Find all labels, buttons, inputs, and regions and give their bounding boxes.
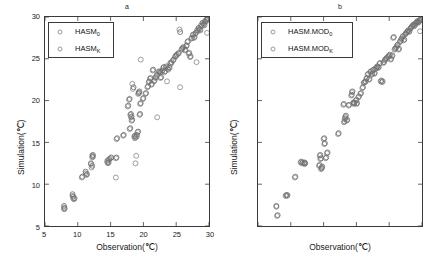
legend-item-hasmmod-0[interactable]: HASM.MOD0 [262,23,352,40]
x-tick-label: 10 [73,230,81,239]
legend-label-0: HASM0 [75,27,100,37]
legend-marker-icon [271,29,276,34]
legend-b[interactable]: HASM.MOD0 HASM.MODK [261,22,353,58]
panel-a: a 51015202530 51015202530 Observation(℃)… [0,0,220,275]
panel-b: b 51015202530 51015202530 Observation(℃)… [220,0,441,275]
x-tick-label: 15 [106,230,114,239]
panel-b-title: b [257,3,423,10]
y-tick-label: 5 [24,223,40,232]
legend-item-hasmmod-k[interactable]: HASM.MODK [262,40,352,57]
panel-a-title: a [44,3,210,10]
legend-marker-icon [58,29,63,34]
y-tick-label: 20 [24,96,40,105]
legend-label-0: HASM.MOD0 [288,27,332,37]
x-tick-label: 25 [173,230,181,239]
figure-root: a 51015202530 51015202530 Observation(℃)… [0,0,441,275]
legend-label-k: HASM.MODK [288,44,333,54]
y-tick-label: 30 [24,12,40,21]
x-axis-title-a: Observation(℃) [96,242,158,252]
y-axis-title-b: Simulation(℃) [229,120,239,175]
y-tick-label: 15 [24,138,40,147]
x-tick-label: 5 [42,230,46,239]
legend-a[interactable]: HASM0 HASMK [48,22,114,58]
legend-label-k: HASMK [75,44,100,54]
legend-marker-icon [58,46,63,51]
legend-item-hasm-k[interactable]: HASMK [49,40,113,57]
legend-marker-icon [271,46,276,51]
x-tick-label: 30 [206,230,214,239]
y-tick-label: 10 [24,180,40,189]
y-tick-label: 25 [24,54,40,63]
legend-item-hasm-0[interactable]: HASM0 [49,23,113,40]
y-axis-title-a: Simulation(℃) [16,120,26,175]
x-tick-label: 20 [139,230,147,239]
x-axis-title-b: Observation(℃) [309,242,371,252]
